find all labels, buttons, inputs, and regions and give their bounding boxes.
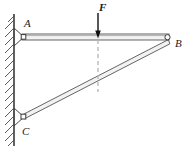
pin-a-marker — [21, 35, 26, 40]
label-point-a: A — [24, 18, 31, 29]
member-beam-ab — [22, 34, 169, 40]
strut-cb-body — [23, 40, 170, 119]
pin-b-marker — [165, 35, 170, 40]
pin-joint-c — [21, 114, 26, 119]
label-force-f: F — [99, 2, 106, 13]
label-point-c: C — [22, 126, 29, 137]
support-wall — [5, 14, 14, 146]
member-strut-cb — [23, 40, 170, 119]
pin-c-marker — [21, 114, 26, 119]
wall-hatching — [5, 16, 14, 146]
label-point-b: B — [175, 38, 182, 49]
beam-ab-body — [22, 34, 169, 40]
pin-joint-a — [21, 35, 26, 40]
statics-bracket-diagram: A B C F — [0, 0, 190, 146]
pin-joint-b — [165, 35, 170, 40]
